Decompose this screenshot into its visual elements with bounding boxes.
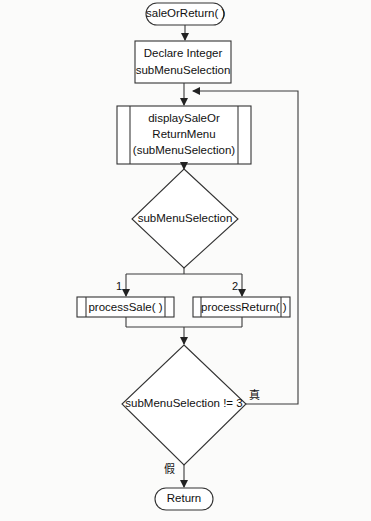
process-sale-label: processSale( ) (86, 300, 165, 315)
flowchart-canvas (0, 0, 371, 521)
false-branch-label: 假 (164, 464, 175, 476)
declare-box-line2: subMenuSelection (135, 63, 231, 78)
display-menu-line2: ReturnMenu (130, 127, 238, 142)
true-branch-label: 真 (249, 390, 260, 402)
case-select-label: subMenuSelection (132, 211, 238, 226)
case-2-label: 2 (232, 280, 238, 292)
display-menu-line1: displaySaleOr (130, 111, 238, 126)
start-terminal-label: saleOrReturn( ) (146, 6, 224, 21)
case-1-label: 1 (116, 280, 122, 292)
process-return-label: processReturn( ) (201, 300, 281, 315)
loop-check-label: subMenuSelection != 3 (122, 396, 246, 411)
display-menu-line3: (subMenuSelection) (130, 143, 238, 158)
declare-box-line1: Declare Integer (135, 46, 231, 61)
return-terminal-label: Return (155, 491, 213, 506)
